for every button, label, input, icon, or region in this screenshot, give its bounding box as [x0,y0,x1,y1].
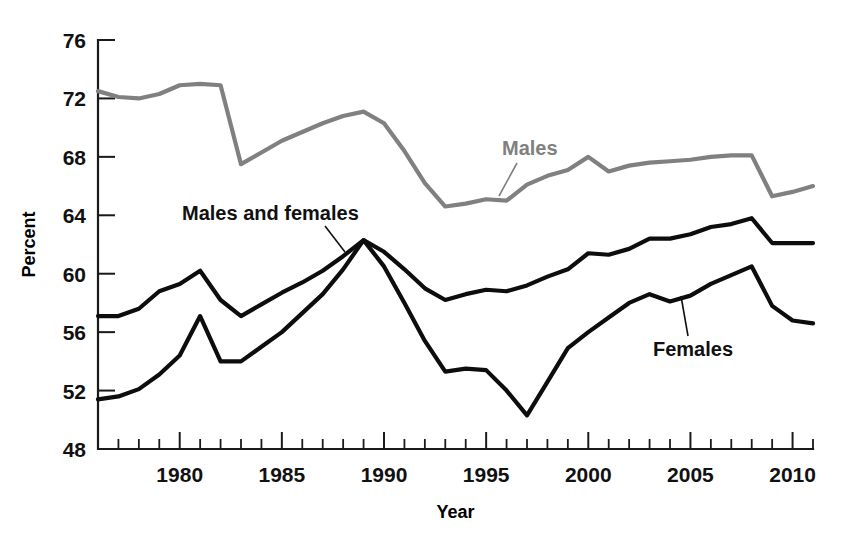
axes: 4852566064687276198019851990199520002005… [63,29,816,486]
y-tick-label: 52 [63,380,86,403]
x-tick-label: 2005 [667,463,714,486]
x-tick-label: 1985 [258,463,305,486]
series-annotations: MalesMales and femalesFemales [182,137,733,360]
y-tick-label: 64 [63,204,87,227]
chart-figure: 4852566064687276198019851990199520002005… [0,0,843,547]
x-axis-title: Year [436,502,474,522]
series-lines [98,84,813,416]
x-tick-label: 2010 [769,463,816,486]
annotation-leader-males-and-females [325,226,345,252]
y-tick-label: 76 [63,29,86,52]
series-line-males-and-females [98,218,813,316]
axis-lines [98,40,813,449]
x-tick-label: 1980 [156,463,203,486]
series-line-males [98,84,813,207]
y-tick-label: 60 [63,263,86,286]
y-tick-label: 56 [63,321,86,344]
y-tick-label: 72 [63,87,86,110]
annotation-label-males-and-females: Males and females [182,202,359,224]
chart-canvas: 4852566064687276198019851990199520002005… [0,0,843,547]
annotation-label-females: Females [653,338,733,360]
annotation-leader-males [499,163,517,196]
annotation-leader-females [681,296,688,336]
y-tick-label: 48 [63,438,87,461]
x-tick-label: 1995 [463,463,510,486]
y-tick-label: 68 [63,146,87,169]
series-line-females [98,240,813,415]
annotation-label-males: Males [502,137,558,159]
y-axis-title: Percent [19,211,39,277]
x-tick-label: 2000 [565,463,612,486]
x-tick-label: 1990 [361,463,408,486]
